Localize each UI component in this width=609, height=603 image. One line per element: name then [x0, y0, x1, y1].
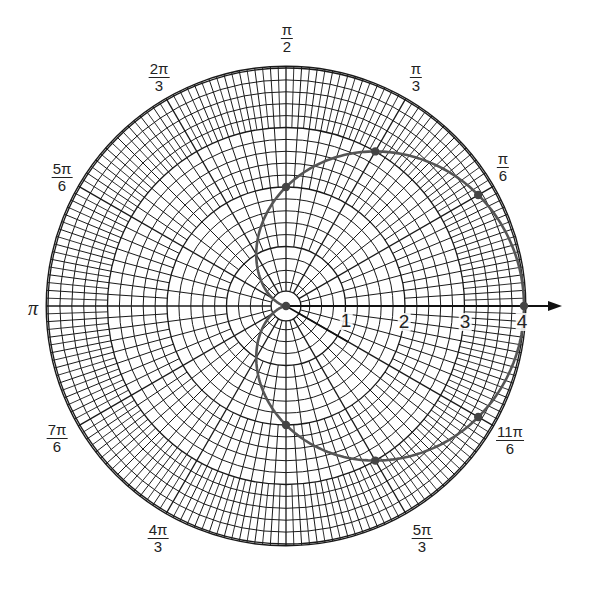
- curve-point: [474, 413, 482, 421]
- curve-point: [371, 147, 379, 155]
- curve-point: [371, 456, 379, 464]
- curve-point: [282, 302, 290, 310]
- curve-point: [474, 191, 482, 199]
- radius-tick-4: 4: [516, 313, 529, 331]
- angle-label-4pi-3: 4π3: [148, 521, 169, 555]
- radius-tick-1: 1: [340, 312, 353, 330]
- radius-tick-3: 3: [459, 313, 472, 331]
- angle-label-pi-2: π2: [281, 21, 293, 55]
- curve-point: [282, 183, 290, 191]
- angle-label-5pi-6: 5π6: [52, 160, 73, 194]
- curve-point: [520, 302, 528, 310]
- angle-label-pi-3: π3: [410, 60, 422, 94]
- curve-point: [282, 421, 290, 429]
- polar-grid: [0, 0, 609, 603]
- angle-label-11pi-6: 11π6: [496, 423, 524, 457]
- angle-label-pi-6: π6: [497, 150, 509, 184]
- angle-label-pi: π: [28, 300, 38, 317]
- angle-label-7pi-6: 7π6: [47, 421, 68, 455]
- angle-label-2pi-3: 2π3: [149, 60, 170, 94]
- radius-tick-2: 2: [398, 313, 411, 331]
- angle-label-5pi-3: 5π3: [412, 521, 433, 555]
